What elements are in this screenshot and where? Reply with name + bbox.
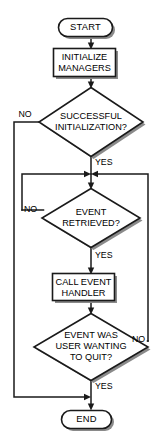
node-event-was-user-wanting-to-quit[interactable]: EVENT WAS USER WANTING TO QUIT? [34, 314, 151, 384]
arrowhead-quit-no-merge [91, 171, 98, 177]
event-retrieved-label-line2: RETRIEVED? [62, 218, 120, 228]
flowchart-canvas: START INITIALIZE MANAGERS SUCCESSFUL INI… [0, 0, 159, 445]
edge-label-quit-yes: YES [95, 381, 113, 391]
arrowhead-quit-yes-to-end [88, 404, 94, 411]
node-initialize-managers[interactable]: INITIALIZE MANAGERS [54, 49, 119, 80]
edge-label-retrieved-no: NO [24, 204, 37, 214]
node-event-retrieved[interactable]: EVENT RETRIEVED? [42, 189, 143, 251]
initialize-managers-label-line1: INITIALIZE [62, 52, 107, 62]
successful-initialization-label-line2: INITIALIZATION? [55, 122, 127, 132]
event-quit-label-line3: TO QUIT? [70, 352, 112, 362]
edge-label-quit-no: NO [132, 334, 145, 344]
start-label: START [70, 21, 101, 32]
edge-label-successful-yes: YES [95, 157, 113, 167]
edge-label-retrieved-yes: YES [95, 250, 113, 260]
node-successful-initialization[interactable]: SUCCESSFUL INITIALIZATION? [39, 88, 146, 160]
successful-initialization-label-line1: SUCCESSFUL [60, 111, 122, 121]
flowchart-diagram: START INITIALIZE MANAGERS SUCCESSFUL INI… [0, 0, 159, 445]
node-start[interactable]: START [59, 19, 116, 40]
arrowhead-retrieved-no-merge [84, 171, 91, 177]
initialize-managers-label-line2: MANAGERS [58, 63, 111, 73]
call-event-handler-label-line1: CALL EVENT [56, 277, 112, 287]
end-label: END [76, 413, 96, 424]
arrowhead-successful-no-to-end [84, 394, 91, 400]
node-end[interactable]: END [62, 411, 115, 432]
event-quit-label-line1: EVENT WAS [64, 330, 118, 340]
node-call-event-handler[interactable]: CALL EVENT HANDLER [53, 274, 118, 304]
event-retrieved-label-line1: EVENT [76, 207, 107, 217]
edge-label-successful-no: NO [19, 109, 32, 119]
call-event-handler-label-line2: HANDLER [62, 288, 106, 298]
event-quit-label-line2: USER WANTING [55, 341, 126, 351]
